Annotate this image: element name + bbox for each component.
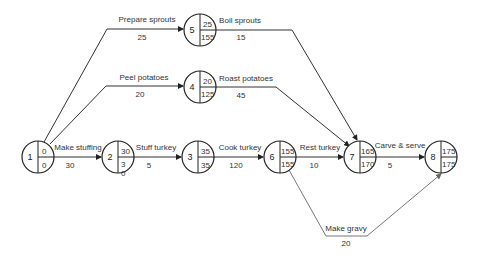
edge-rest-turkey: Rest turkey 10 [296,143,343,170]
node-3: 3 35 35 [182,141,214,173]
activity-label: Peel potatoes [120,73,169,82]
edge-peel-potatoes: Peel potatoes 20 [50,73,183,144]
node-4: 4 20 125 [184,71,216,103]
node-earliest: 155 [281,147,295,156]
node-2: 2 30 3 0 [102,141,134,178]
edge-roast-potatoes: Roast potatoes 45 [216,74,349,146]
activity-label: Boil sprouts [219,16,261,25]
node-earliest: 0 [42,147,47,156]
activity-label: Prepare sprouts [119,15,176,24]
activity-duration: 120 [229,161,243,170]
edge-make-gravy: Make gravy 20 [289,170,441,248]
activity-label: Rest turkey [300,143,340,152]
node-id: 4 [189,82,194,92]
activity-label: Carve & serve [375,141,426,150]
activity-label: Cook turkey [219,143,262,152]
node-latest: 35 [201,161,210,170]
node-latest: 155 [281,160,295,169]
activity-label: Roast potatoes [219,74,273,83]
node-id: 5 [189,25,194,35]
node-id: 3 [187,152,192,162]
node-id: 7 [349,152,354,162]
node-earliest: 25 [203,20,212,29]
activity-label: Make gravy [325,224,366,233]
activity-duration: 5 [147,161,152,170]
node-8: 8 175 175 [425,141,457,173]
edge-carve-serve: Carve & serve 5 [375,141,426,170]
node-latest: 155 [201,33,215,42]
node-latest: 125 [201,90,215,99]
node-latest: 0 [42,161,47,170]
activity-duration: 10 [310,161,319,170]
node-6: 6 155 155 [264,141,296,173]
node-earliest: 30 [121,147,130,156]
node-earliest: 35 [201,147,210,156]
node-latest: 3 [121,160,126,169]
node-earliest: 165 [361,147,375,156]
activity-duration: 15 [237,33,246,42]
network-diagram: Prepare sprouts 25 Peel potatoes 20 Make… [0,0,481,258]
node-7: 7 165 170 [344,141,376,173]
node-latest: 170 [361,160,375,169]
activity-label: Make stuffing [54,143,101,152]
activity-duration: 25 [138,33,147,42]
node-earliest: 175 [442,147,456,156]
node-latest: 175 [442,160,456,169]
node-extra: 0 [121,169,126,178]
node-id: 6 [269,152,274,162]
activity-duration: 45 [237,91,246,100]
node-earliest: 20 [203,77,212,86]
activity-label: Stuff turkey [136,143,176,152]
node-5: 5 25 155 [184,14,216,46]
node-id: 8 [430,152,435,162]
activity-duration: 5 [388,161,393,170]
edge-stuff-turkey: Stuff turkey 5 [134,143,181,170]
node-1: 1 0 0 [22,141,54,173]
activity-duration: 20 [136,90,145,99]
activity-duration: 30 [66,161,75,170]
node-id: 2 [107,152,112,162]
activity-duration: 20 [342,239,351,248]
edge-cook-turkey: Cook turkey 120 [214,143,263,170]
edge-make-stuffing: Make stuffing 30 [54,143,102,170]
node-id: 1 [27,152,32,162]
